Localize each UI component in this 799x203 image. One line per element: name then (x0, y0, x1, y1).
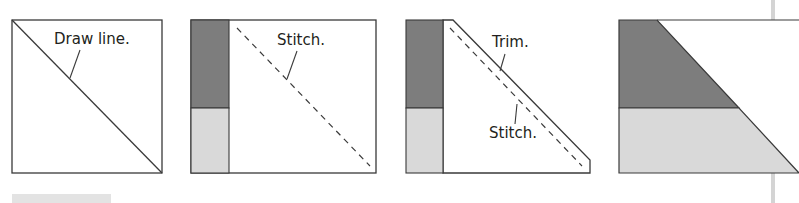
label-stitch: Stitch. (277, 31, 325, 49)
label-stitch: Stitch. (489, 124, 537, 142)
panel-1-draw-line: Draw line. (12, 20, 162, 173)
dark-strip (406, 20, 443, 108)
label-trim: Trim. (491, 33, 529, 51)
panel-4-result (619, 20, 799, 173)
label-draw-line: Draw line. (54, 30, 130, 48)
trim-leader-line (500, 54, 505, 71)
dark-triangle (619, 20, 739, 108)
caption-placeholder-bar (12, 194, 111, 203)
diagram-svg: Draw line. Stitch. Trim. Stitch. (0, 0, 799, 203)
light-trapezoid (619, 108, 799, 173)
panel-3-trim: Trim. Stitch. (406, 20, 590, 173)
light-strip (406, 108, 443, 173)
panel-2-stitch: Stitch. (191, 20, 376, 173)
light-strip (191, 108, 229, 173)
diagram-stage: Draw line. Stitch. Trim. Stitch. (0, 0, 799, 203)
dark-strip (191, 20, 229, 108)
